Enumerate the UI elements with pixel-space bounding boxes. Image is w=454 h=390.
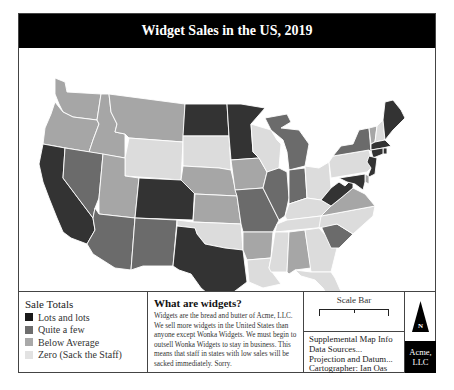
supplemental-info-panel: Supplemental Map Info Data Sources... Pr… (304, 332, 405, 373)
state-wy[interactable] (125, 138, 183, 180)
state-me[interactable] (383, 100, 405, 140)
about-widgets-panel: What are widgets? Widgets are the bread … (148, 292, 304, 373)
legend-label: Zero (Sack the Staff) (38, 349, 122, 360)
map-layout-frame: Widget Sales in the US, 2019 (18, 13, 436, 373)
legend-item-zero: Zero (Sack the Staff) (25, 349, 147, 362)
company-logo: Acme, LLC (405, 341, 436, 373)
logo-line-2: LLC (405, 357, 436, 367)
legend-label: Lots and lots (38, 312, 90, 323)
legend-swatch-icon (25, 351, 33, 359)
legend-swatch-icon (25, 338, 33, 346)
scale-bar-panel: Scale Bar (304, 292, 405, 332)
legend-label: Below Average (38, 337, 99, 348)
state-ri[interactable] (383, 148, 387, 154)
legend-label: Quite a few (38, 324, 85, 335)
state-nm[interactable] (131, 218, 177, 270)
svg-text:N: N (418, 322, 423, 330)
logo-line-1: Acme, (405, 347, 436, 357)
state-fl[interactable] (295, 270, 343, 292)
state-sd[interactable] (183, 136, 231, 170)
about-body: Widgets are the bread and butter of Acme… (154, 312, 303, 370)
map-svg (19, 48, 435, 292)
scale-bar-label: Scale Bar (304, 295, 404, 305)
state-ar[interactable] (243, 232, 273, 260)
state-nd[interactable] (183, 104, 229, 136)
north-arrow-panel: N (405, 292, 436, 341)
state-de[interactable] (365, 174, 369, 184)
state-az[interactable] (87, 208, 135, 270)
state-ks[interactable] (193, 194, 241, 224)
north-arrow-icon: N (405, 292, 436, 341)
legend-swatch-icon (25, 313, 33, 321)
legend: Sale Totals Lots and lots Quite a few Be… (19, 292, 148, 373)
map-title: Widget Sales in the US, 2019 (19, 14, 435, 48)
bottom-panel: Sale Totals Lots and lots Quite a few Be… (19, 292, 435, 373)
info-line: Cartographer: Ian Oas (309, 364, 404, 374)
legend-item-below-average: Below Average (25, 336, 147, 349)
scale-bar-icon (319, 308, 389, 316)
us-choropleth-map (19, 48, 435, 292)
legend-item-quite-a-few: Quite a few (25, 324, 147, 337)
legend-swatch-icon (25, 326, 33, 334)
about-title: What are widgets? (154, 297, 303, 309)
legend-title: Sale Totals (25, 298, 147, 310)
legend-item-lots: Lots and lots (25, 311, 147, 324)
